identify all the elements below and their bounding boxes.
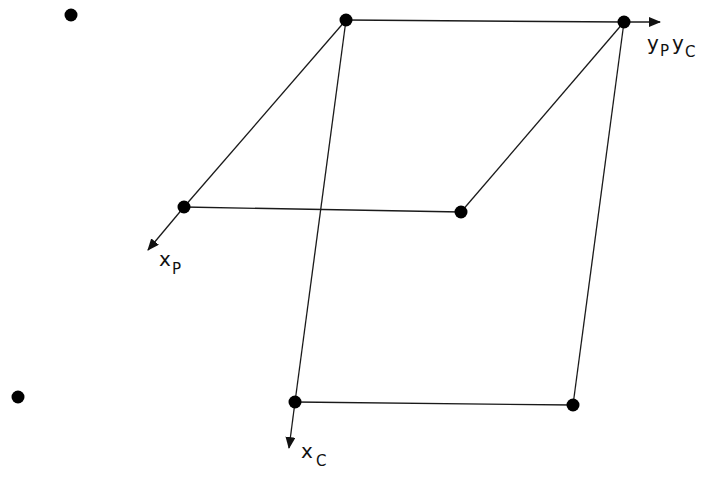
child-frame <box>289 20 624 448</box>
label-y-axes: y P y C <box>647 31 695 61</box>
frame-diagram: y P y C x P x C <box>0 0 706 477</box>
x-parent-axis <box>148 207 184 250</box>
label-y-c-sub: C <box>685 43 695 61</box>
label-x-p-sub: P <box>172 260 181 278</box>
label-x-parent: x P <box>159 247 181 278</box>
x-child-axis <box>289 402 295 448</box>
dot-top-left <box>340 14 353 27</box>
top-edge-y-axis <box>346 20 660 22</box>
label-x-child: x C <box>301 439 326 470</box>
label-y-p-sub: P <box>660 42 669 60</box>
dot-child-bottom-right <box>567 399 580 412</box>
dot-stray-1 <box>65 9 78 22</box>
parent-frame <box>148 20 624 250</box>
label-x-c-main: x <box>301 439 313 463</box>
label-y-c-main: y <box>672 31 684 55</box>
dot-top-right <box>618 16 631 29</box>
label-x-p-main: x <box>159 247 171 271</box>
label-x-c-sub: C <box>316 452 326 470</box>
label-y-p-main: y <box>647 31 659 55</box>
dot-parent-bottom-right <box>455 206 468 219</box>
dot-stray-2 <box>12 391 25 404</box>
dot-child-bottom-left <box>289 396 302 409</box>
dot-parent-bottom-left <box>178 201 191 214</box>
